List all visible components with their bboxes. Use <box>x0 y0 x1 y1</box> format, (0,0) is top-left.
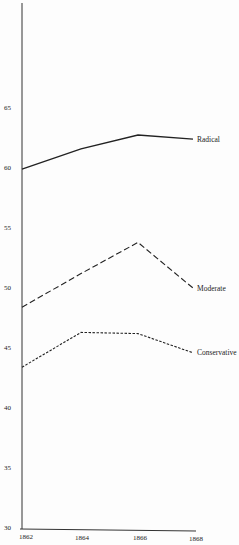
y-tick-label: 30 <box>4 524 12 532</box>
axes <box>20 3 196 531</box>
series-labels: RadicalModerateConservative <box>197 135 237 358</box>
x-tick-label: 1862 <box>19 533 34 541</box>
y-tick-label: 35 <box>4 464 12 472</box>
y-tick-label: 45 <box>4 344 12 352</box>
series-line-moderate <box>22 242 193 307</box>
y-tick-label: 55 <box>4 224 12 232</box>
x-tick-label: 1866 <box>133 534 148 542</box>
series-label-moderate: Moderate <box>197 284 226 293</box>
series-lines <box>22 135 193 367</box>
y-tick-label: 65 <box>4 104 12 112</box>
line-chart: 3035404550556065 1862186418661868 Radica… <box>0 0 239 545</box>
x-tick-label: 1864 <box>75 534 90 542</box>
x-tick-labels: 1862186418661868 <box>19 533 204 543</box>
y-tick-labels: 3035404550556065 <box>4 104 12 532</box>
series-label-radical: Radical <box>197 135 220 144</box>
x-tick-label: 1868 <box>189 535 204 543</box>
series-line-radical <box>22 135 193 169</box>
x-axis <box>20 529 196 531</box>
y-tick-label: 40 <box>4 404 12 412</box>
series-line-conservative <box>22 332 193 367</box>
y-tick-label: 60 <box>4 164 12 172</box>
series-label-conservative: Conservative <box>197 348 237 357</box>
y-tick-label: 50 <box>4 284 12 292</box>
